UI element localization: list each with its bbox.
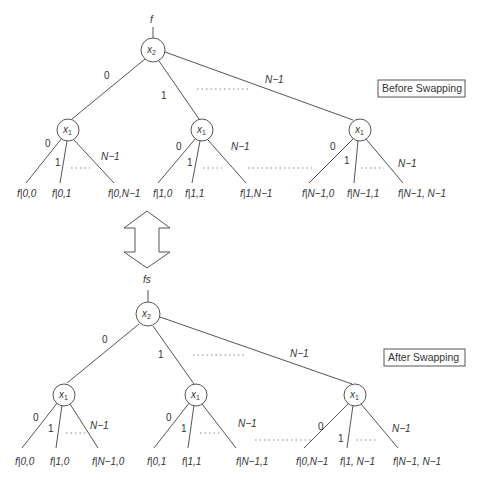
before-root-edge-0: 0 [104,70,110,81]
svg-text:N−1: N−1 [238,418,257,429]
leaf: f|N−1,0 [92,456,125,467]
svg-text:N−1: N−1 [101,151,120,162]
svg-text:N−1: N−1 [231,141,250,152]
svg-text:1: 1 [344,155,350,166]
leaf: f|0,1 [52,188,71,199]
leaf: f|1,0 [50,456,70,467]
leaf: f|1, N−1 [340,456,375,467]
before-swapping-label: Before Swapping [378,80,465,97]
after-root-edge-1: 1 [158,349,164,360]
before-tree: f 0 1 N−1 x2 0 1 N−1 x1 f|0,0 f|0,1 f|0,… [17,14,465,199]
leaf: f|1,1 [185,188,204,199]
svg-text:1: 1 [187,157,193,168]
swap-diagram: f 0 1 N−1 x2 0 1 N−1 x1 f|0,0 f|0,1 f|0,… [0,0,483,484]
after-child-0: 0 1 N−1 x1 f|0,0 f|1,0 f|N−1,0 [15,384,125,467]
svg-text:N−1: N−1 [90,420,109,431]
svg-text:1: 1 [48,423,54,434]
svg-text:0: 0 [318,421,324,432]
before-root-edge-n: N−1 [265,74,284,85]
svg-text:Before Swapping: Before Swapping [382,82,462,94]
before-root-node: x2 [141,38,165,62]
leaf: f|N−1,1 [236,456,268,467]
after-root-node: x2 [136,302,160,326]
leaf: f|0,N−1 [296,456,328,467]
svg-text:1: 1 [338,433,344,444]
svg-text:0: 0 [33,412,39,423]
leaf: f|0,0 [17,188,37,199]
after-root-edge-0: 0 [102,334,108,345]
after-input-label: fs [143,274,151,285]
leaf: f|N−1,1 [347,188,379,199]
before-child-2: 0 1 N−1 x1 f|N−1,0 f|N−1,1 f|N−1, N−1 [302,119,446,199]
svg-text:0: 0 [45,138,51,149]
leaf: f|0,1 [147,456,166,467]
before-input-label: f [150,14,154,25]
before-child-0: 0 1 N−1 x1 f|0,0 f|0,1 f|0,N−1 [17,119,140,199]
svg-text:1: 1 [181,423,187,434]
before-child-1: 0 1 N−1 x1 f|1,0 f|1,1 f|1,N−1 [153,119,272,199]
after-child-1: 0 1 N−1 x1 f|0,1 f|1,1 f|N−1,1 [147,384,268,467]
svg-text:N−1: N−1 [392,423,411,434]
leaf: f|N−1,0 [302,188,335,199]
double-arrow-vertical-icon [124,211,170,268]
leaf: f|1,N−1 [240,188,272,199]
after-swapping-label: After Swapping [384,349,465,366]
after-tree: fs 0 1 N−1 x2 0 1 N−1 x1 f|0,0 f|1,0 f|N… [15,274,465,467]
svg-text:0: 0 [166,412,172,423]
after-root-edge-n: N−1 [290,348,309,359]
leaf: f|N−1, N−1 [398,188,446,199]
leaf: f|N−1, N−1 [393,456,441,467]
leaf: f|0,N−1 [108,188,140,199]
leaf: f|1,1 [182,456,201,467]
svg-text:1: 1 [55,157,61,168]
svg-text:0: 0 [330,141,336,152]
svg-text:N−1: N−1 [398,158,417,169]
svg-text:0: 0 [176,141,182,152]
leaf: f|1,0 [153,188,173,199]
svg-text:After Swapping: After Swapping [388,351,459,363]
leaf: f|0,0 [15,456,35,467]
before-root-edge-1: 1 [161,90,167,101]
after-child-2: 0 1 N−1 x1 f|0,N−1 f|1, N−1 f|N−1, N−1 [296,384,441,467]
